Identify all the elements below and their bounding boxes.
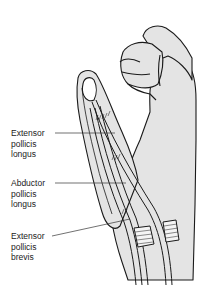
label-line: Extensor <box>11 128 45 139</box>
thumb <box>77 71 138 229</box>
label-line: pollicis <box>11 242 45 253</box>
label-extensor-pollicis-brevis: Extensor pollicis brevis <box>11 231 45 263</box>
label-line: Abductor <box>11 178 45 189</box>
label-extensor-pollicis-longus: Extensor pollicis longus <box>11 128 45 160</box>
label-line: pollicis <box>11 189 45 200</box>
label-line: longus <box>11 149 45 160</box>
label-line: Extensor <box>11 231 45 242</box>
label-abductor-pollicis-longus: Abductor pollicis longus <box>11 178 45 210</box>
label-line: longus <box>11 199 45 210</box>
label-line: pollicis <box>11 139 45 150</box>
label-line: brevis <box>11 252 45 263</box>
